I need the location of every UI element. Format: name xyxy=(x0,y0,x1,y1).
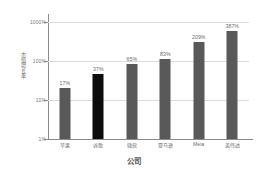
bar-value-label: 83% xyxy=(160,51,171,57)
bar-group: 17% xyxy=(48,14,82,139)
bar[interactable] xyxy=(126,64,137,140)
bar-group: 65% xyxy=(115,14,149,139)
y-tick-mark-1 xyxy=(44,139,48,140)
y-tick-label-1: 1% xyxy=(12,136,46,142)
bar[interactable] xyxy=(193,42,204,139)
bar[interactable] xyxy=(59,88,70,139)
bar-value-label: 17% xyxy=(59,80,70,86)
bar-chart: 市值增长率 1000% 100% 10% 1% 17% 37% 65% 83% xyxy=(0,0,268,175)
bar-value-label: 387% xyxy=(225,23,239,29)
y-tick-label-100: 100% xyxy=(12,58,46,64)
bar-value-label: 209% xyxy=(192,34,206,40)
plot-area: 17% 37% 65% 83% 209% 387% xyxy=(48,14,249,139)
y-tick-label-10: 10% xyxy=(12,97,46,103)
bar[interactable] xyxy=(227,31,238,139)
x-axis-title: 公司 xyxy=(0,155,268,166)
y-tick-label-1000: 1000% xyxy=(12,19,46,25)
x-axis-spine xyxy=(48,139,253,140)
bar-group: 387% xyxy=(216,14,250,139)
bar-value-label: 37% xyxy=(93,66,104,72)
bar-group: 209% xyxy=(182,14,216,139)
bar-value-label: 65% xyxy=(126,56,137,62)
bar-group: 83% xyxy=(149,14,183,139)
bar-group: 37% xyxy=(82,14,116,139)
bar[interactable] xyxy=(93,74,104,139)
bar[interactable] xyxy=(160,59,171,139)
y-axis-title: 市值增长率 xyxy=(14,52,26,78)
x-tick-label-5: 英伟达 xyxy=(212,141,252,148)
